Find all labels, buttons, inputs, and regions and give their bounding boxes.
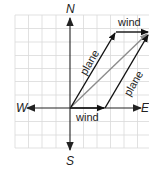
wind-label-top: wind — [117, 16, 141, 28]
east-label: E — [141, 101, 149, 115]
plane-vector-right — [105, 35, 148, 108]
north-label: N — [66, 2, 75, 16]
south-label: S — [66, 154, 74, 168]
wind-label-bottom: wind — [75, 111, 99, 123]
vector-diagram: N S W E wind wind plane plane — [0, 0, 149, 173]
west-label: W — [16, 101, 29, 115]
